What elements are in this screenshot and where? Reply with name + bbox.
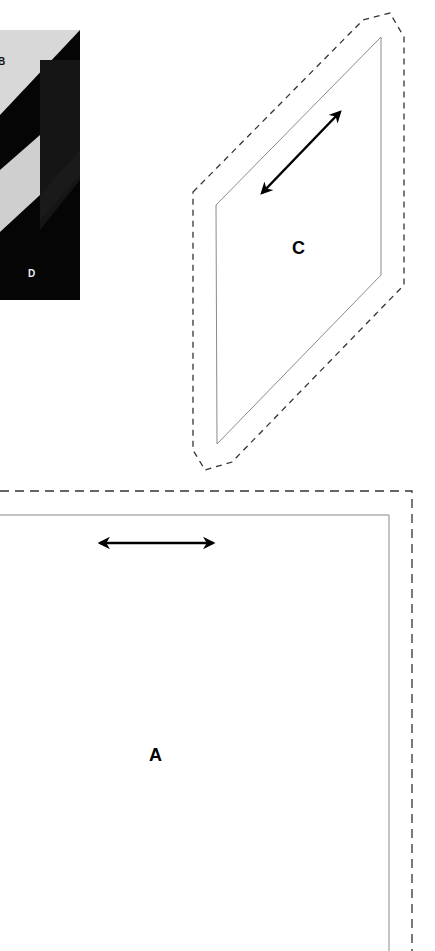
shape-a-label: A (149, 745, 162, 765)
shape-a: A (0, 491, 412, 951)
shape-a-outline (0, 515, 389, 951)
shape-a-dashed-outline (0, 491, 412, 951)
double-arrow-diagonal-icon (262, 112, 340, 193)
photo-panel: B D (0, 30, 80, 300)
shape-c: C (193, 13, 404, 470)
shape-c-label: C (292, 238, 305, 258)
photo-label-d: D (28, 268, 35, 279)
photo-label-b: B (0, 56, 5, 67)
diagram-canvas: B D C A (0, 0, 435, 951)
